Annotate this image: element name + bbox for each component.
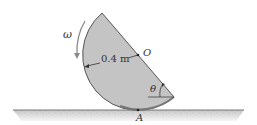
diagram-canvas: ω 0.4 m O θ A xyxy=(0,0,257,125)
ground-surface xyxy=(13,110,244,121)
contact-label: A xyxy=(135,112,143,123)
theta-label: θ xyxy=(150,83,156,94)
center-label: O xyxy=(143,47,151,58)
omega-label: ω xyxy=(63,28,72,41)
contact-point xyxy=(137,109,140,112)
radius-label: 0.4 m xyxy=(101,53,130,64)
center-point xyxy=(137,54,140,57)
